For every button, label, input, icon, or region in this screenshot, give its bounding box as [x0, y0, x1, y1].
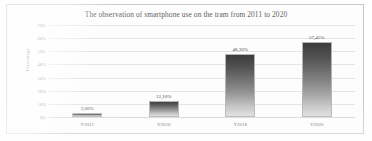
bar-value-label: 48,30%	[233, 47, 248, 52]
bar[interactable]	[302, 42, 332, 118]
bar[interactable]	[72, 113, 102, 117]
y-axis-tick-label: 50%	[38, 49, 46, 54]
chart-container: The observation of smartphone use on the…	[6, 4, 364, 134]
bar-group: 48,30%Y2018	[202, 25, 279, 117]
y-axis-tick-label: 60%	[38, 36, 46, 41]
bar[interactable]	[149, 101, 179, 117]
y-axis-tick-label: 40%	[38, 62, 46, 67]
y-axis-tick-label: 30%	[38, 75, 46, 80]
bar-group: 12,10%Y2016	[126, 25, 203, 117]
bar-series: 3,00%Y201112,10%Y201648,30%Y201857,45%Y2…	[49, 25, 355, 117]
bar-value-label: 12,10%	[156, 94, 171, 99]
bar-value-label: 3,00%	[81, 106, 94, 111]
plot-area: 0%10%20%30%40%50%60%70% 3,00%Y201112,10%…	[49, 25, 355, 117]
y-axis-tick-label: 0%	[40, 115, 46, 120]
bar-group: 57,45%Y2020	[279, 25, 356, 117]
bar-value-label: 57,45%	[309, 35, 324, 40]
chart-title: The observation of smartphone use on the…	[7, 10, 365, 19]
y-axis-tick-label: 10%	[38, 101, 46, 106]
bar[interactable]	[225, 54, 255, 117]
x-axis-tick-label: Y2018	[233, 122, 247, 127]
x-axis-tick-label: Y2020	[310, 122, 324, 127]
y-axis-tick-label: 20%	[38, 88, 46, 93]
y-axis-title: Percentage	[25, 48, 30, 71]
x-axis-tick-label: Y2016	[157, 122, 171, 127]
gridline	[49, 117, 355, 118]
y-axis-tick-label: 70%	[38, 23, 46, 28]
x-axis-tick-label: Y2011	[81, 122, 94, 127]
bar-group: 3,00%Y2011	[49, 25, 126, 117]
